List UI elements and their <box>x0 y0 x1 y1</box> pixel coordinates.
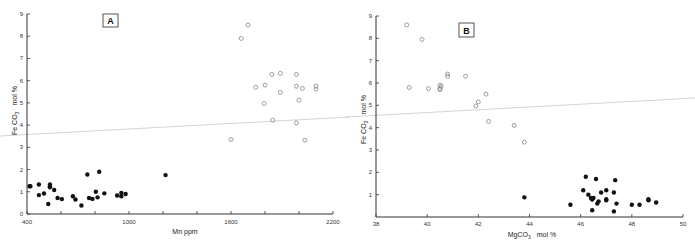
data-point-filled <box>596 199 600 203</box>
data-point-filled <box>37 182 41 186</box>
data-point-filled <box>599 190 603 194</box>
y-tick-label: 9 <box>369 13 373 19</box>
data-point-open <box>246 23 250 27</box>
x-tick-labels-b: 38404244464850 <box>373 221 687 227</box>
data-point-open <box>239 36 243 40</box>
data-point-filled <box>46 202 50 206</box>
data-point-open <box>464 74 468 78</box>
data-point-filled <box>52 188 56 192</box>
x-tick-label: 40 <box>424 221 431 227</box>
figure-canvas: 0123456789 400 1000 1600 2200 Mn ppm Fe … <box>0 0 695 246</box>
data-point-filled <box>102 191 106 195</box>
data-point-open <box>314 87 318 91</box>
data-point-filled <box>568 203 572 207</box>
data-point-open <box>262 102 266 106</box>
data-point-filled <box>123 192 127 196</box>
y-tick-label: 6 <box>369 80 373 86</box>
scan-line-left <box>0 117 350 136</box>
data-point-filled <box>73 197 77 201</box>
data-point-open <box>405 23 409 27</box>
x-tick-label-1600: 1600 <box>224 219 238 225</box>
data-point-open <box>254 85 258 89</box>
data-point-filled <box>119 194 123 198</box>
data-point-filled <box>594 177 598 181</box>
data-point-filled <box>581 188 585 192</box>
data-point-filled <box>630 203 634 207</box>
data-point-filled <box>97 170 101 174</box>
x-tick-label-2200: 2200 <box>326 219 340 225</box>
data-point-open <box>474 104 478 108</box>
y-tick-label: 7 <box>20 55 24 61</box>
data-point-open <box>229 138 233 142</box>
svg-text:Fe CO3mol %: Fe CO3mol % <box>360 95 369 144</box>
data-point-filled <box>115 193 119 197</box>
data-point-open <box>407 85 411 89</box>
y-tick-label: 5 <box>369 102 373 108</box>
x-axis-label-b: MgCO3mol % <box>508 231 556 240</box>
data-point-open <box>294 121 298 125</box>
y-tick-label: 2 <box>369 169 373 175</box>
x-tick-label: 42 <box>475 221 482 227</box>
y-axis-label-b: Fe CO3mol % <box>360 95 369 144</box>
y-tick-label: 8 <box>20 33 24 39</box>
data-point-open <box>263 83 267 87</box>
data-point-filled <box>94 190 98 194</box>
y-tick-label: 9 <box>20 11 24 17</box>
data-point-open <box>484 92 488 96</box>
data-point-filled <box>584 175 588 179</box>
data-point-filled <box>55 196 59 200</box>
data-point-open <box>294 72 298 76</box>
data-point-open <box>522 140 526 144</box>
data-point-open <box>294 84 298 88</box>
data-point-filled <box>591 196 595 200</box>
x-tick-label: 46 <box>577 221 584 227</box>
data-point-open <box>297 98 301 102</box>
y-tick-label: 6 <box>20 78 24 84</box>
data-point-filled <box>85 172 89 176</box>
y-axis-label-a: Fe CO3mol % <box>11 86 20 135</box>
x-tick-label-400: 400 <box>22 219 33 225</box>
x-tick-label: 50 <box>680 221 687 227</box>
data-point-filled <box>612 190 616 194</box>
data-point-open <box>426 87 430 91</box>
data-point-open <box>278 71 282 75</box>
data-point-filled <box>79 203 83 207</box>
data-point-filled <box>646 198 650 202</box>
y-tick-label: 0 <box>20 211 24 217</box>
data-point-filled <box>613 178 617 182</box>
scan-line-right <box>345 98 695 117</box>
data-point-filled <box>28 184 32 188</box>
data-point-open <box>270 72 274 76</box>
data-point-open <box>420 37 424 41</box>
y-tick-label: 3 <box>20 144 24 150</box>
data-point-filled <box>604 198 608 202</box>
svg-text:Fe CO3mol %: Fe CO3mol % <box>11 86 20 135</box>
data-point-open <box>303 138 307 142</box>
data-point-filled <box>612 209 616 213</box>
data-point-open <box>300 86 304 90</box>
data-point-open <box>476 100 480 104</box>
y-tick-label: 8 <box>369 35 373 41</box>
data-point-filled <box>163 173 167 177</box>
x-tick-label-1000: 1000 <box>122 219 136 225</box>
y-tick-label: 1 <box>20 189 24 195</box>
y-tick-label: 2 <box>20 167 24 173</box>
data-point-filled <box>95 195 99 199</box>
x-tick-label: 38 <box>373 221 380 227</box>
y-tick-label: 5 <box>20 100 24 106</box>
data-points-a <box>27 23 318 208</box>
y-tick-label: 4 <box>20 122 24 128</box>
x-tick-label: 48 <box>628 221 635 227</box>
panel-label-b: B <box>463 26 470 36</box>
data-point-open <box>278 90 282 94</box>
y-tick-label: 4 <box>369 125 373 131</box>
y-tick-label: 7 <box>369 58 373 64</box>
data-points-b <box>405 23 659 214</box>
data-point-filled <box>637 203 641 207</box>
x-axis-label-a: Mn ppm <box>172 228 197 236</box>
data-point-filled <box>48 185 52 189</box>
data-point-open <box>512 123 516 127</box>
x-tick-label: 44 <box>526 221 533 227</box>
data-point-filled <box>604 188 608 192</box>
data-point-filled <box>522 195 526 199</box>
